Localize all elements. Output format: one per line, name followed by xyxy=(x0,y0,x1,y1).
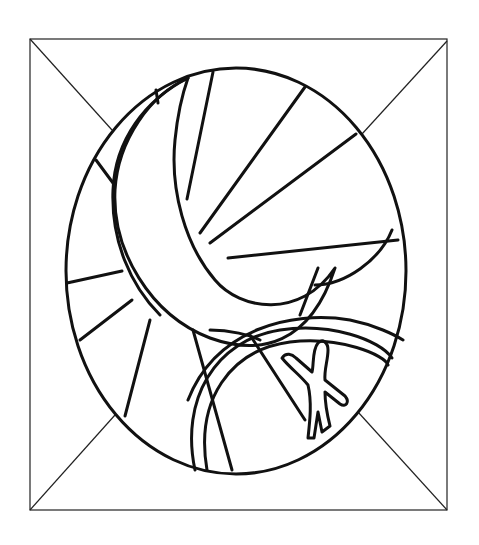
coloring-page: Line-art drawing: a crescent moon with r… xyxy=(0,0,479,545)
ring-segment-3 xyxy=(80,300,132,340)
frame-diagonal-bottom-left xyxy=(30,415,115,510)
ray-lines xyxy=(187,72,398,315)
ring-segment-1 xyxy=(96,160,113,183)
ring-segment-lines xyxy=(67,90,158,416)
ray-0 xyxy=(187,72,213,199)
ring-segment-4 xyxy=(125,320,150,416)
frame-diagonal-top-right xyxy=(362,41,447,134)
crescent-moon-shape xyxy=(115,78,335,346)
drawing-canvas xyxy=(0,0,479,545)
frame-diagonal-bottom-right xyxy=(358,412,447,510)
ring-segment-0 xyxy=(156,90,158,103)
lower-arc-5 xyxy=(250,335,305,420)
human-figure-icon xyxy=(282,341,347,438)
ray-3 xyxy=(228,240,398,258)
ring-segment-2 xyxy=(67,271,122,283)
frame-diagonal-top-left xyxy=(30,39,112,130)
